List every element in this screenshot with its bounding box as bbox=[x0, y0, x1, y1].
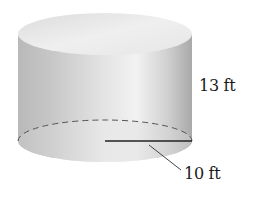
cylinder-top-face bbox=[18, 13, 192, 55]
height-label: 13 ft bbox=[199, 78, 235, 94]
radius-label: 10 ft bbox=[184, 166, 220, 182]
